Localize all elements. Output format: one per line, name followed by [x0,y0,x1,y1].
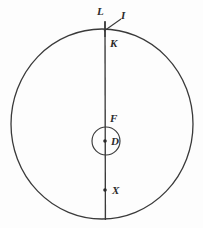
point-label-f: F [110,113,118,124]
point-label-d: D [111,136,119,147]
point-label-k: K [110,38,118,49]
point-marker-x [103,188,107,192]
point-label-l: L [97,6,104,17]
point-label-i: I [121,10,125,21]
point-marker-d [103,139,107,143]
geometry-figure: L I K F D X [0,0,203,228]
outer-circle [11,29,193,219]
diagram-canvas [0,0,203,228]
point-label-x: X [112,185,120,196]
